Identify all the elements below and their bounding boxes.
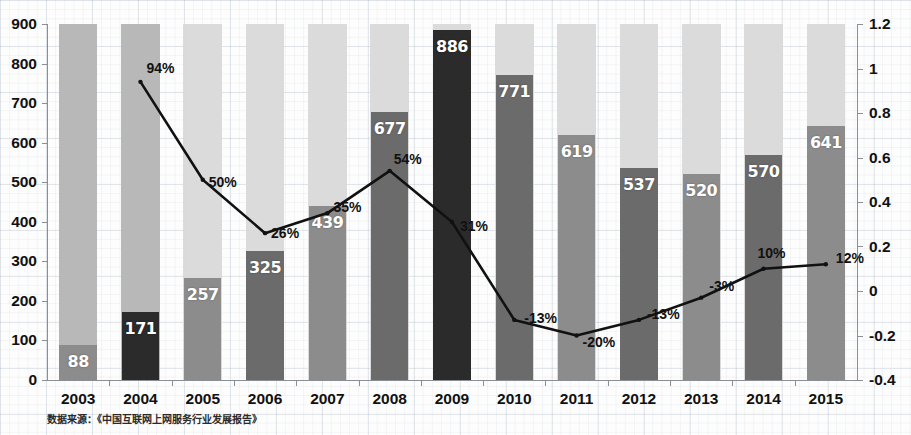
- line-data-point: [512, 318, 516, 322]
- line-data-point: [450, 220, 454, 224]
- line-data-point: [201, 178, 205, 182]
- line-value-label-2007: 35%: [333, 200, 361, 214]
- line-value-label-2005: 50%: [209, 175, 237, 189]
- line-data-point: [637, 318, 641, 322]
- line-value-label-2009: 31%: [460, 219, 488, 233]
- line-value-label-2011: -20%: [583, 335, 616, 349]
- line-value-label-2015: 12%: [836, 251, 864, 265]
- line-data-point: [761, 267, 765, 271]
- line-data-point: [263, 231, 267, 235]
- line-value-label-2004: 94%: [146, 61, 174, 75]
- line-value-label-2014: 10%: [758, 246, 786, 260]
- bar-line-combo-chart: 数据来源：《中国互联网上网服务行业发展报告》 88200317120042572…: [0, 0, 911, 435]
- line-data-point: [699, 295, 703, 299]
- growth-rate-line-series: [0, 0, 911, 435]
- line-value-label-2012: -13%: [647, 307, 680, 321]
- line-value-label-2013: -3%: [709, 279, 734, 293]
- line-value-label-2006: 26%: [271, 226, 299, 240]
- line-data-point: [387, 169, 391, 173]
- line-data-point: [824, 262, 828, 266]
- line-data-point: [574, 333, 578, 337]
- line-value-label-2010: -13%: [524, 311, 557, 325]
- line-data-point: [138, 80, 142, 84]
- line-data-point: [325, 211, 329, 215]
- line-value-label-2008: 54%: [394, 152, 422, 166]
